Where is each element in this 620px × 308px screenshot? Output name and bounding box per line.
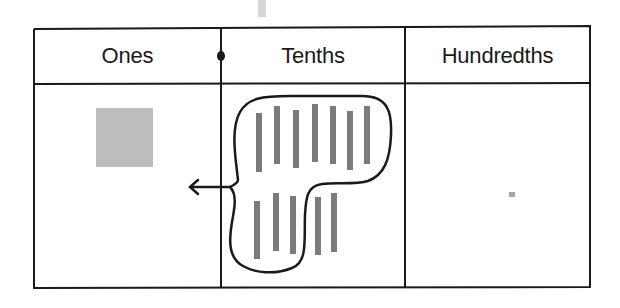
hundredths-block — [509, 192, 515, 197]
column-header-ones: Ones — [34, 28, 221, 84]
tenth-bar — [254, 201, 260, 259]
tenth-bar — [312, 104, 318, 162]
tenth-bar — [256, 113, 262, 172]
tenths-bars — [254, 104, 370, 259]
tenth-bar — [273, 193, 279, 251]
tenth-bar — [293, 110, 299, 168]
column-header-hundredths: Hundredths — [405, 28, 590, 84]
tenth-bar — [274, 106, 280, 164]
ones-block — [96, 108, 153, 167]
tenth-bar — [290, 196, 296, 254]
tenth-bar — [330, 106, 336, 164]
regroup-arrow-icon — [190, 180, 230, 194]
tenth-bar — [364, 106, 370, 164]
tenth-bar — [347, 111, 353, 170]
tenth-bar — [315, 197, 321, 255]
place-value-diagram: Ones Tenths Hundredths — [0, 0, 620, 308]
tenth-bar — [331, 193, 337, 252]
column-header-tenths: Tenths — [221, 28, 405, 84]
